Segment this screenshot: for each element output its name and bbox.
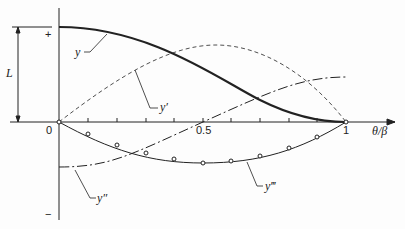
arrowhead-icon bbox=[16, 27, 20, 33]
plot-area bbox=[0, 0, 405, 229]
x-ticks bbox=[88, 118, 317, 122]
y-triple-prime-label: y‴ bbox=[265, 179, 275, 194]
arrowhead-icon bbox=[16, 116, 20, 122]
one-label: 1 bbox=[343, 124, 349, 136]
leader-lines bbox=[75, 34, 263, 198]
y-prime-label: y′ bbox=[160, 100, 168, 115]
x-axis-label: θ/β bbox=[372, 124, 387, 139]
y-label: y bbox=[75, 45, 80, 60]
L-label: L bbox=[6, 66, 13, 81]
axis-arrow-icon bbox=[387, 119, 395, 125]
plus-label: + bbox=[45, 28, 51, 40]
minus-label: − bbox=[45, 208, 51, 220]
half-label: 0.5 bbox=[196, 124, 211, 136]
curve-y-prime bbox=[59, 45, 346, 122]
origin-label: 0 bbox=[46, 124, 52, 136]
diagram: + − L 0 0.5 1 θ/β y y′ y″ y‴ bbox=[0, 0, 405, 229]
y-double-prime-label: y″ bbox=[97, 191, 107, 206]
curve-y bbox=[59, 27, 346, 122]
